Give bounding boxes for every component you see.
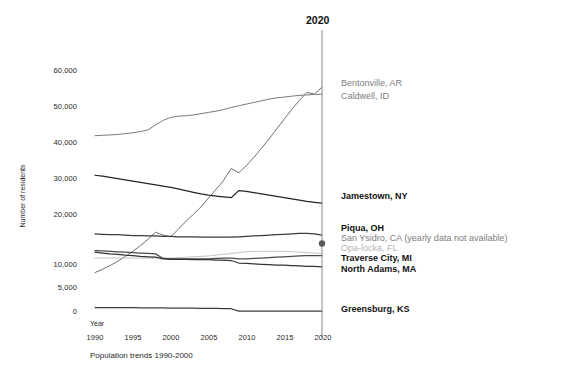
series-label-jamestown: Jamestown, NY	[341, 192, 408, 201]
y-tick-40000: 40,000	[31, 138, 77, 147]
x-axis-title: Year	[90, 320, 104, 327]
series-label-greensburg: Greensburg, KS	[341, 305, 410, 314]
series-label-bentonville: Bentonville, AR	[341, 79, 402, 88]
x-tick-2010: 2010	[227, 333, 267, 342]
y-tick-0: 0	[31, 307, 77, 316]
x-tick-1990: 1990	[75, 333, 115, 342]
marker-group	[319, 240, 325, 246]
series-line-greensburg-ks	[95, 308, 322, 312]
chart-plot-area	[0, 0, 570, 379]
data-point-marker-san-ysidro	[319, 240, 325, 246]
series-line-group	[95, 87, 322, 311]
series-label-piqua: Piqua, OH	[341, 224, 384, 233]
series-label-opa-locka: Opa-locka, FL	[341, 244, 398, 253]
y-tick-60000: 60,000	[31, 66, 77, 75]
y-tick-10000: 10,000	[31, 260, 77, 269]
y-axis-title: Number of residents	[19, 164, 26, 227]
y-tick-5000: 5,000	[31, 283, 77, 292]
chart-caption: Population trends 1990-2000	[90, 351, 193, 360]
x-tick-2005: 2005	[189, 333, 229, 342]
x-tick-2000: 2000	[151, 333, 191, 342]
y-tick-50000: 50,000	[31, 102, 77, 111]
x-tick-1995: 1995	[113, 333, 153, 342]
population-trends-line-chart: 2020 Number of residents 60,000 50,000 4…	[0, 0, 570, 379]
series-line-piqua-oh	[95, 233, 322, 237]
series-label-san-ysidro: San Ysidro, CA (yearly data not availabl…	[341, 234, 507, 243]
x-tick-2020: 2020	[303, 333, 343, 342]
series-line-jamestown-ny	[95, 175, 322, 203]
annotation-2020-label: 2020	[306, 14, 329, 26]
y-tick-20000: 20,000	[31, 210, 77, 219]
series-label-traverse-city: Traverse City, MI	[341, 254, 412, 263]
series-label-north-adams: North Adams, MA	[341, 265, 416, 274]
x-tick-2015: 2015	[265, 333, 305, 342]
series-label-caldwell: Caldwell, ID	[341, 92, 389, 101]
y-tick-30000: 30,000	[31, 174, 77, 183]
